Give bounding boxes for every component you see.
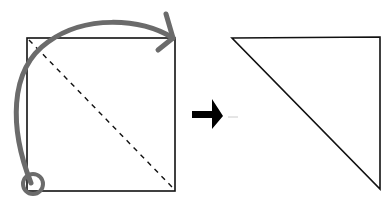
curved-fold-arrow: [16, 22, 173, 183]
dashed-fold-line: [29, 40, 172, 187]
triangle-shape: [232, 37, 380, 189]
step-arrow-icon: [192, 99, 223, 129]
folding-diagram: [0, 0, 391, 199]
